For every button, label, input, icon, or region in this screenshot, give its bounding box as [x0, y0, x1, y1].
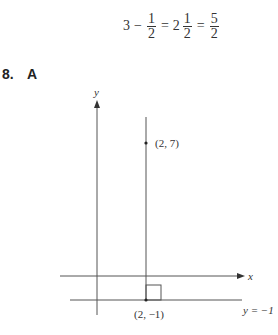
point-bottom-label: (2, −1) [134, 308, 164, 321]
right-angle-marker [146, 285, 161, 300]
x-axis-arrow-icon [237, 273, 245, 279]
coordinate-graph: y x (2, 7) (2, −1) y = −1 [0, 0, 278, 335]
horizontal-line-label: y = −1 [242, 304, 274, 316]
y-axis-label: y [93, 86, 99, 98]
point-2-neg1 [144, 298, 147, 301]
point-2-7 [144, 141, 147, 144]
point-top-label: (2, 7) [155, 137, 179, 150]
y-axis-arrow-icon [94, 100, 100, 108]
x-axis-label: x [247, 270, 253, 282]
